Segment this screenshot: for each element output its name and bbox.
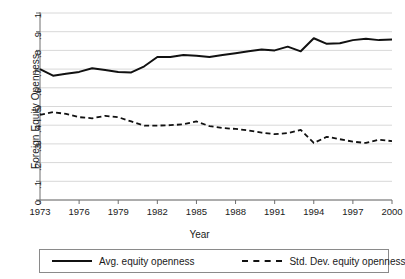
x-axis-tick-label: 1985 — [186, 206, 207, 217]
x-axis-tick-label: 2000 — [381, 206, 402, 217]
gridlines — [40, 13, 392, 200]
y-axis-tick-label: .5 — [32, 107, 44, 121]
y-axis-tick-label: .4 — [32, 125, 44, 139]
legend-item-avg-equity-openness: Avg. equity openness — [52, 250, 194, 272]
x-axis-tick-label: 1991 — [264, 206, 285, 217]
legend-item-std-dev-equity-openness: Std. Dev. equity openness — [242, 250, 405, 272]
x-axis-tick-label: 1988 — [225, 206, 246, 217]
y-axis-tick-label: .8 — [32, 50, 44, 64]
legend-key-solid-line — [52, 260, 92, 262]
y-axis-tick-label: 1 — [32, 13, 44, 27]
x-axis-tick-label: 1973 — [29, 206, 50, 217]
series-line-1 — [40, 38, 392, 75]
legend-key-dashed-line — [242, 260, 282, 262]
legend-label-avg-equity-openness: Avg. equity openness — [99, 256, 194, 267]
y-axis-tick-label: .2 — [32, 163, 44, 177]
x-axis-tick-label: 1976 — [69, 206, 90, 217]
series-line-2 — [40, 112, 392, 143]
legend-label-std-dev-equity-openness: Std. Dev. equity openness — [289, 256, 405, 267]
data-series-group — [40, 38, 392, 143]
chart-legend: Avg. equity openness Std. Dev. equity op… — [39, 249, 389, 273]
y-axis-tick-label: .7 — [32, 69, 44, 83]
x-axis-tick-label: 1994 — [303, 206, 324, 217]
y-axis-tick-label: .6 — [32, 88, 44, 102]
y-axis-tick-label: .3 — [32, 144, 44, 158]
y-axis-tick-label: .9 — [32, 32, 44, 46]
axis-ticks — [36, 13, 392, 204]
x-axis-tick-label: 1982 — [147, 206, 168, 217]
x-axis-tick-label: 1979 — [108, 206, 129, 217]
x-axis-tick-label: 1997 — [342, 206, 363, 217]
y-axis-tick-label: .1 — [32, 181, 44, 195]
x-axis-title: Year — [0, 229, 399, 240]
